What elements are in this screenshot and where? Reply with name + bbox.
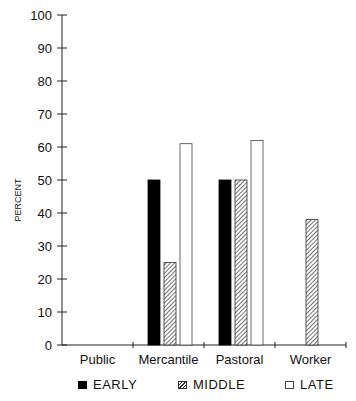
late-swatch-icon xyxy=(285,381,294,389)
legend-label-middle: MIDDLE xyxy=(193,377,245,392)
y-axis-label: PERCENT xyxy=(13,178,23,222)
legend: EARLY MIDDLE LATE xyxy=(0,377,356,397)
legend-label-late: LATE xyxy=(300,377,334,392)
legend-item-early: EARLY xyxy=(78,377,137,392)
bar-late-mercantile xyxy=(180,144,192,345)
bar-middle-pastoral xyxy=(235,180,247,345)
y-tick-label: 40 xyxy=(38,206,52,221)
y-tick-label: 50 xyxy=(38,173,52,188)
legend-label-early: EARLY xyxy=(93,377,137,392)
middle-swatch-icon xyxy=(178,381,187,389)
y-tick-label: 100 xyxy=(30,8,52,23)
y-axis: 0102030405060708090100 xyxy=(30,8,67,353)
y-tick-label: 0 xyxy=(45,338,52,353)
bar-middle-worker xyxy=(306,220,318,345)
y-tick-label: 60 xyxy=(38,140,52,155)
bar-early-pastoral xyxy=(219,180,231,345)
x-category-label: Pastoral xyxy=(216,352,264,367)
bar-chart: 0102030405060708090100 PublicMercantileP… xyxy=(0,0,356,401)
x-category-label: Mercantile xyxy=(139,352,199,367)
legend-item-late: LATE xyxy=(285,377,334,392)
x-axis: PublicMercantilePastoralWorker xyxy=(62,342,346,367)
bar-early-mercantile xyxy=(148,180,160,345)
x-category-label: Worker xyxy=(290,352,332,367)
bar-late-pastoral xyxy=(251,140,263,345)
bar-middle-mercantile xyxy=(164,263,176,346)
y-tick-label: 10 xyxy=(38,305,52,320)
early-swatch-icon xyxy=(78,381,87,389)
y-tick-label: 80 xyxy=(38,74,52,89)
y-tick-label: 90 xyxy=(38,41,52,56)
y-tick-label: 70 xyxy=(38,107,52,122)
y-tick-label: 30 xyxy=(38,239,52,254)
x-category-label: Public xyxy=(80,352,116,367)
y-tick-label: 20 xyxy=(38,272,52,287)
legend-item-middle: MIDDLE xyxy=(178,377,245,392)
bars xyxy=(148,140,318,345)
